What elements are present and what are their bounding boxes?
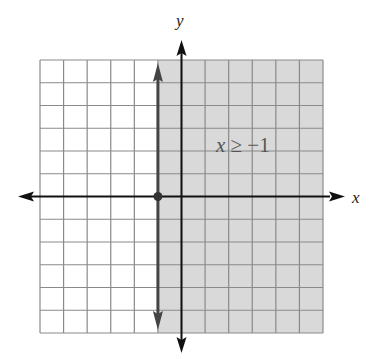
y-axis-label: y bbox=[174, 11, 184, 30]
x-axis-right-arrow-icon bbox=[329, 192, 345, 202]
boundary-point bbox=[153, 192, 162, 201]
inequality-graph: y x x ≥ −1 bbox=[0, 0, 373, 359]
x-axis-label: x bbox=[351, 188, 360, 207]
inequality-label: x ≥ −1 bbox=[215, 133, 270, 157]
